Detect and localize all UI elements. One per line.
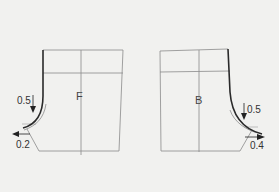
front-piece (22, 50, 123, 155)
back-measure-down-label: 0.5 (247, 105, 261, 115)
back-hip-line (160, 71, 230, 72)
front-piece-label: F (76, 91, 83, 102)
diagram-canvas: F 0.5 0.2 B 0.5 0.4 (0, 0, 279, 192)
back-crotch-curve-bold (228, 49, 262, 134)
front-measure-down-label: 0.5 (17, 96, 31, 106)
front-side-seam (119, 50, 123, 151)
back-piece-label: B (195, 95, 202, 106)
pattern-drawing (0, 0, 279, 192)
back-measure-right-label: 0.4 (250, 141, 264, 151)
back-waist-line (160, 49, 228, 51)
front-crotch-curve-bold (23, 50, 43, 128)
front-measure-left-label: 0.2 (16, 140, 30, 150)
back-side-seam (160, 51, 161, 151)
back-piece (160, 49, 258, 152)
front-arrow-left-icon (12, 131, 30, 137)
